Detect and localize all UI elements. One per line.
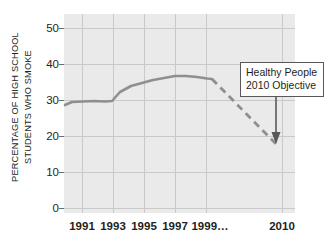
x-tick-label-1999: 1999… (191, 220, 228, 232)
x-tick-label-1995: 1995 (131, 220, 157, 232)
callout-line-1: Healthy People (246, 66, 318, 79)
x-tick-label-1993: 1993 (100, 220, 126, 232)
callout-line-2: 2010 Objective (246, 79, 318, 92)
x-tick-label-1997: 1997 (162, 220, 188, 232)
series-overlay (0, 0, 333, 249)
series-observed-line (65, 76, 212, 105)
healthy-people-callout: Healthy People 2010 Objective (240, 62, 324, 97)
smoking-rate-line-chart: PERCENTAGE OF HIGH SCHOOL STUDENTS WHO S… (0, 0, 333, 249)
x-tick-label-2010: 2010 (269, 220, 295, 232)
x-tick-label-1991: 1991 (69, 220, 95, 232)
